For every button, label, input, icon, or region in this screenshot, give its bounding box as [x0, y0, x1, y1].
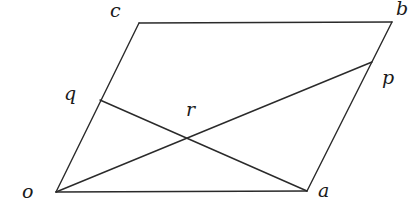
label-a: a: [318, 179, 329, 201]
side-co: [56, 23, 139, 192]
label-p: p: [382, 66, 394, 88]
side-ab: [307, 22, 392, 191]
label-q: q: [64, 82, 76, 104]
label-b: b: [396, 0, 408, 19]
label-r: r: [186, 98, 197, 120]
label-c: c: [110, 0, 121, 21]
diagram-labels: o a b c q p r: [22, 0, 408, 202]
side-bc: [139, 22, 392, 23]
line-op: [56, 62, 372, 192]
side-oa: [56, 191, 307, 192]
diagram-edges: [56, 22, 392, 192]
parallelogram-diagram: o a b c q p r: [0, 0, 419, 218]
label-o: o: [22, 180, 33, 202]
line-aq: [100, 100, 307, 191]
